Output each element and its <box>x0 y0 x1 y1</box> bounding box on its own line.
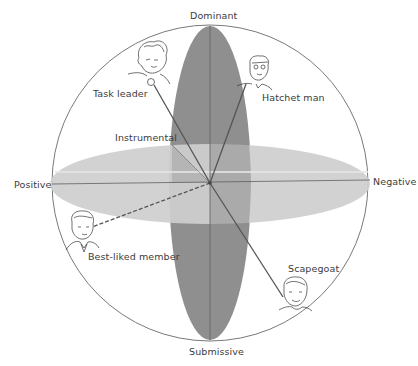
axis-label-positive: Positive <box>14 180 51 190</box>
role-label-hatchet-man: Hatchet man <box>262 93 325 103</box>
role-space-diagram <box>0 0 418 366</box>
vertical-plane-front <box>210 26 251 340</box>
axis-label-submissive: Submissive <box>189 347 244 357</box>
role-label-best-liked-member: Best-liked member <box>88 252 180 262</box>
origin-point <box>208 181 212 185</box>
hatchet-man-portrait-icon <box>237 56 272 90</box>
role-label-scapegoat: Scapegoat <box>288 264 339 274</box>
role-label-task-leader: Task leader <box>93 89 148 99</box>
task-leader-portrait-icon <box>128 41 170 86</box>
axis-label-dominant: Dominant <box>190 11 237 21</box>
axis-label-negative: Negative <box>373 177 416 187</box>
axis-label-instrumental: Instrumental <box>115 133 177 143</box>
scapegoat-portrait-icon <box>279 277 312 311</box>
best-liked-member-portrait-icon <box>66 211 99 252</box>
